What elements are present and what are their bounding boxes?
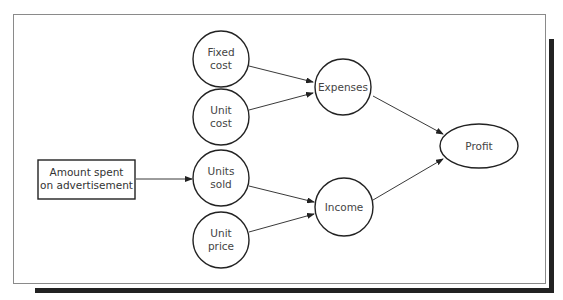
label-fixed-cost: Fixed cost [207, 46, 234, 72]
label-amount-spent: Amount spent on advertisement [38, 166, 135, 192]
edge-unit-price-to-income [249, 214, 314, 232]
edge-fixed-cost-to-expenses [249, 66, 313, 82]
label-income: Income [325, 201, 364, 214]
label-profit: Profit [465, 140, 492, 153]
edge-expenses-to-profit [373, 96, 443, 134]
label-units-sold: Units sold [208, 165, 235, 191]
label-unit-cost: Unit cost [210, 104, 232, 130]
edge-units-sold-to-income [249, 186, 314, 202]
edge-income-to-profit [373, 159, 443, 200]
label-expenses: Expenses [318, 81, 368, 94]
edge-unit-cost-to-expenses [249, 93, 313, 110]
label-unit-price: Unit price [208, 227, 234, 253]
